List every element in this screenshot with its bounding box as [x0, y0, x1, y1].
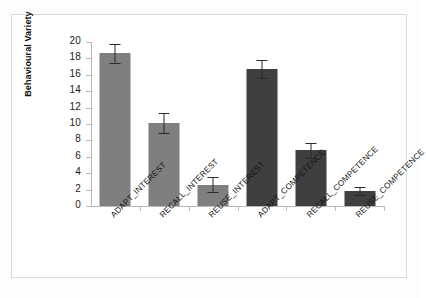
error-bar-cap-top	[256, 60, 267, 61]
y-axis-title: Behavioural Variety	[23, 0, 33, 114]
error-bar-cap-top	[305, 143, 316, 144]
bar	[246, 69, 277, 206]
y-tick-label: 6	[75, 150, 81, 161]
y-tick-label: 18	[69, 51, 81, 62]
y-tick-mark	[86, 206, 91, 207]
bar-group	[91, 42, 140, 206]
x-tick-mark	[140, 206, 141, 211]
chart-frame: Behavioural Variety 20181614121086420 AD…	[11, 14, 407, 278]
x-tick-mark	[286, 206, 287, 211]
error-bar-cap-top	[159, 113, 170, 114]
error-bar-line	[213, 177, 214, 192]
y-tick-label: 16	[69, 68, 81, 79]
error-bar-cap-bottom	[354, 195, 365, 196]
bar	[100, 53, 131, 206]
x-tick-mark	[384, 206, 385, 211]
y-tick-label: 10	[69, 117, 81, 128]
x-tick-mark	[238, 206, 239, 211]
error-bar-line	[164, 113, 165, 133]
error-bar-cap-bottom	[256, 78, 267, 79]
x-tick-mark	[189, 206, 190, 211]
y-tick-label: 20	[69, 35, 81, 46]
error-bar-cap-top	[110, 44, 121, 45]
error-bar-cap-bottom	[110, 63, 121, 64]
y-tick-label: 12	[69, 101, 81, 112]
error-bar-cap-bottom	[159, 133, 170, 134]
error-bar-line	[359, 187, 360, 195]
error-bar-line	[115, 44, 116, 64]
y-tick-label: 2	[75, 183, 81, 194]
error-bar-cap-bottom	[208, 192, 219, 193]
error-bar-cap-top	[208, 177, 219, 178]
x-tick-mark	[335, 206, 336, 211]
error-bar-line	[310, 143, 311, 158]
y-tick-label: 14	[69, 84, 81, 95]
y-tick-label: 0	[75, 199, 81, 210]
error-bar-line	[261, 60, 262, 78]
y-tick-label: 4	[75, 166, 81, 177]
error-bar-cap-top	[354, 187, 365, 188]
y-tick-label: 8	[75, 133, 81, 144]
